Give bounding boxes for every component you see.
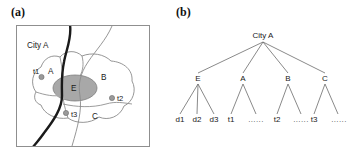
edge-e-d3	[198, 84, 214, 114]
tree-leaf-t1[interactable]: t1	[228, 115, 235, 124]
edge-b-t2	[277, 84, 288, 114]
edge-a-t1	[231, 84, 243, 114]
tree-edges	[180, 42, 338, 114]
edge-root-b	[263, 42, 288, 73]
tree-node-root[interactable]: City A	[253, 31, 275, 40]
tree-leaf-b-ellipsis: ......	[293, 115, 309, 124]
edge-b-more	[288, 84, 301, 114]
figure-container: (a) (b)	[0, 0, 356, 157]
edge-e-d1	[180, 84, 198, 114]
tree-node-c[interactable]: C	[322, 74, 328, 83]
tree-leaf-a-ellipsis: ......	[248, 115, 264, 124]
tree-node-b[interactable]: B	[285, 74, 290, 83]
tree-node-e[interactable]: E	[195, 74, 200, 83]
tree-leaf-d2[interactable]: d2	[193, 115, 202, 124]
edge-a-more	[243, 84, 256, 114]
tree-leaf-t3[interactable]: t3	[311, 115, 318, 124]
tree-node-a[interactable]: A	[240, 74, 246, 83]
tree-leaf-d3[interactable]: d3	[210, 115, 219, 124]
edge-root-c	[263, 42, 325, 73]
edge-c-more	[325, 84, 338, 114]
edge-c-t3	[314, 84, 325, 114]
tree-leaf-d1[interactable]: d1	[176, 115, 185, 124]
panel-b-tree: City A E A B C d1 d2 d3 t1 ...... t2 ...…	[0, 0, 356, 157]
tree-leaf-t2[interactable]: t2	[274, 115, 281, 124]
tree-leaf-c-ellipsis: ......	[331, 115, 347, 124]
edge-e-d2	[197, 84, 198, 114]
